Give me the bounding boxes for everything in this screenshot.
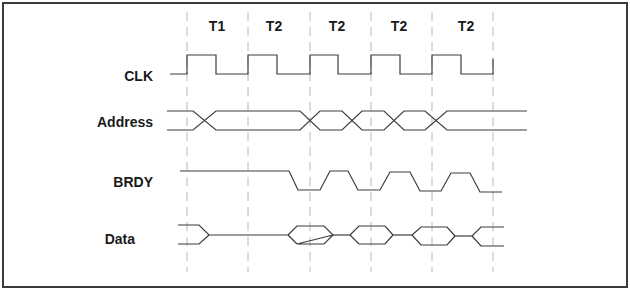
signal-label-data: Data [105,231,136,247]
signal-labels: CLK Address BRDY Data [97,68,154,247]
cycle-gridlines [187,12,493,272]
clk-waveform [170,55,493,74]
cycle-label-t1: T1 [209,18,226,34]
address-waveform [167,111,527,130]
cycle-label-t2: T2 [458,18,475,34]
cycle-label-t2: T2 [266,18,283,34]
timing-diagram: T1 T2 T2 T2 T2 CLK Address BRDY Data [0,0,630,292]
cycle-label-t2: T2 [391,18,408,34]
signal-label-brdy: BRDY [113,174,153,190]
brdy-waveform [180,171,502,192]
cycle-labels: T1 T2 T2 T2 T2 [209,18,475,34]
data-waveform [178,225,504,246]
signal-label-clk: CLK [124,68,153,84]
cycle-label-t2: T2 [329,18,346,34]
signal-label-address: Address [97,114,153,130]
